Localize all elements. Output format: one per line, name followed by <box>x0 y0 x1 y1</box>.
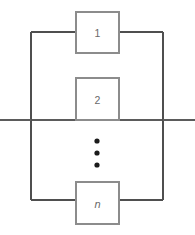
block-2-label: 2 <box>95 94 101 106</box>
ellipsis-dot-2 <box>94 150 99 155</box>
block-n-label: n <box>94 198 100 210</box>
vertical-ellipsis <box>94 138 99 167</box>
ellipsis-dot-3 <box>94 162 99 167</box>
diagram-canvas: 1 2 n <box>0 0 195 235</box>
block-n[interactable]: n <box>76 182 119 224</box>
ellipsis-dot-1 <box>94 138 99 143</box>
block-1[interactable]: 1 <box>76 12 119 53</box>
parallel-blocks-diagram: 1 2 n <box>0 0 195 235</box>
block-2[interactable]: 2 <box>76 78 119 120</box>
block-1-label: 1 <box>95 27 101 39</box>
